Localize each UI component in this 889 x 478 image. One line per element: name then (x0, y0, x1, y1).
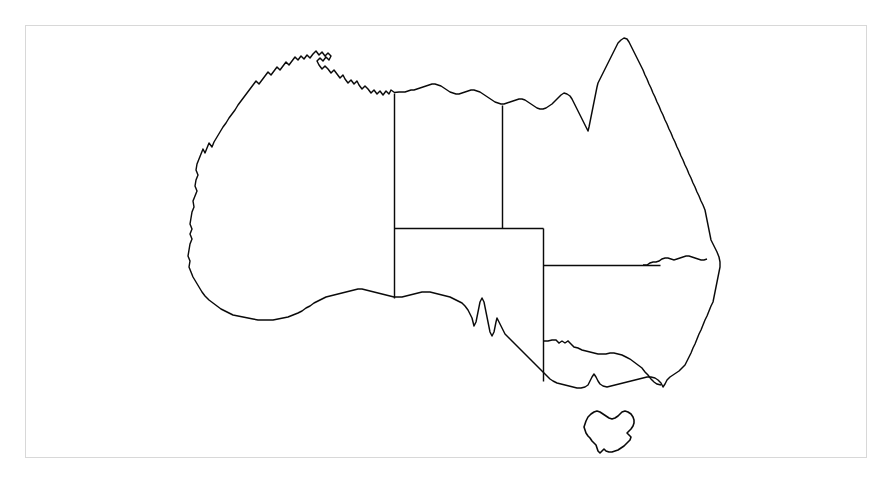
mainland-australia-group (188, 38, 720, 388)
australia-map (0, 0, 889, 478)
screenshot-root (0, 0, 889, 478)
tasmania-outline (584, 411, 634, 453)
tasmania-group (584, 411, 634, 453)
mainland-australia-outline (188, 38, 720, 388)
